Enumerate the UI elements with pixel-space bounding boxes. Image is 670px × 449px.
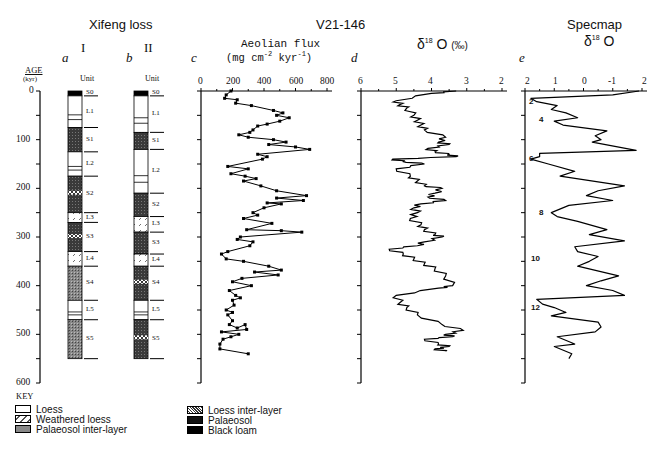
- unit-s5: [68, 320, 82, 359]
- data-point: [305, 194, 308, 197]
- unit-l3: [68, 213, 82, 223]
- stratigraphic-column-I: [68, 91, 98, 359]
- d18o-line: [389, 91, 463, 351]
- weathered-loess-swatch-icon: [15, 415, 31, 423]
- unit-label: L2: [86, 159, 94, 167]
- data-point: [267, 265, 270, 268]
- data-point: [236, 98, 239, 101]
- data-point: [280, 269, 283, 272]
- key-column-right: Loess inter-layer Palaeosol Black loam: [187, 405, 282, 435]
- data-point: [300, 231, 303, 234]
- data-point: [253, 271, 256, 274]
- data-point: [244, 175, 247, 178]
- data-point: [294, 145, 297, 148]
- unit-s0: [68, 91, 82, 96]
- unit-s0: [134, 91, 148, 96]
- data-point: [236, 327, 239, 330]
- data-point: [231, 319, 234, 322]
- data-point: [267, 143, 270, 146]
- data-point: [255, 177, 258, 180]
- isotope-stage-label: 6: [529, 154, 533, 163]
- isotope-stage-label: 4: [539, 115, 543, 124]
- unit-l1: [68, 96, 82, 128]
- data-point: [234, 102, 237, 105]
- data-point: [233, 304, 236, 307]
- data-point: [270, 222, 273, 225]
- unit-label: L2: [152, 166, 160, 174]
- unit-label: S5: [152, 334, 159, 342]
- data-point: [225, 93, 228, 96]
- unit-label: S5: [86, 334, 93, 342]
- data-point: [245, 328, 248, 331]
- unit-s2: [134, 193, 148, 216]
- age-axis: [36, 91, 40, 383]
- data-point: [247, 167, 250, 170]
- data-point: [228, 289, 231, 292]
- unit-label: S2: [86, 189, 93, 197]
- unit-s1: [68, 128, 82, 152]
- data-point: [222, 338, 225, 341]
- data-point: [248, 244, 251, 247]
- unit-label: S1: [86, 135, 93, 143]
- data-point: [256, 125, 259, 128]
- isotope-stage-label: 2: [529, 97, 533, 106]
- data-point: [280, 202, 283, 205]
- data-point: [272, 109, 275, 112]
- data-point: [237, 133, 240, 136]
- unit-label: L5: [152, 305, 160, 313]
- data-point: [234, 294, 237, 297]
- unit-s3: [134, 232, 148, 254]
- data-point: [226, 313, 229, 316]
- data-point: [266, 155, 269, 158]
- unit-label: L4: [152, 255, 160, 263]
- data-point: [259, 184, 262, 187]
- data-point: [266, 123, 269, 126]
- unit-l5: [134, 300, 148, 319]
- unit-label: L1: [86, 107, 94, 115]
- isotope-stage-label: 12: [531, 303, 540, 312]
- data-point: [242, 180, 245, 183]
- specmap-d18o-plot: [521, 88, 647, 383]
- data-point: [250, 104, 253, 107]
- loess-swatch-icon: [15, 405, 31, 413]
- data-point: [220, 253, 223, 256]
- key-item-weathered-loess: Weathered loess: [15, 414, 127, 424]
- data-point: [239, 296, 242, 299]
- data-point: [277, 273, 280, 276]
- data-point: [247, 136, 250, 139]
- data-point: [272, 138, 275, 141]
- data-point: [275, 114, 278, 117]
- figure-canvas: [0, 0, 670, 449]
- data-point: [225, 309, 228, 312]
- unit-label: S1: [152, 136, 159, 144]
- data-point: [251, 128, 254, 131]
- data-point: [302, 199, 305, 202]
- loess-inter-layer: [68, 234, 82, 238]
- data-point: [236, 238, 239, 241]
- data-point: [275, 189, 278, 192]
- data-point: [225, 257, 228, 260]
- specmap-line: [531, 91, 639, 359]
- data-point: [275, 197, 278, 200]
- data-point: [281, 111, 284, 114]
- data-point: [248, 131, 251, 134]
- data-point: [308, 148, 311, 151]
- data-point: [242, 260, 245, 263]
- loess-inter-layer: [134, 280, 148, 284]
- unit-label: L5: [86, 305, 94, 313]
- data-point: [218, 347, 221, 350]
- unit-s4: [68, 266, 82, 300]
- data-point: [229, 172, 232, 175]
- data-point: [266, 201, 269, 204]
- unit-label: S4: [86, 278, 93, 286]
- unit-l1: [134, 96, 148, 133]
- palaeosol-swatch-icon: [187, 416, 203, 424]
- data-point: [228, 323, 231, 326]
- loess-inter-layer-swatch-icon: [187, 406, 203, 414]
- data-point: [278, 120, 281, 123]
- data-point: [288, 116, 291, 119]
- key-item-loess: Loess: [15, 404, 127, 414]
- flux-line: [220, 91, 310, 354]
- loess-inter-layer: [134, 335, 148, 339]
- data-point: [229, 90, 232, 93]
